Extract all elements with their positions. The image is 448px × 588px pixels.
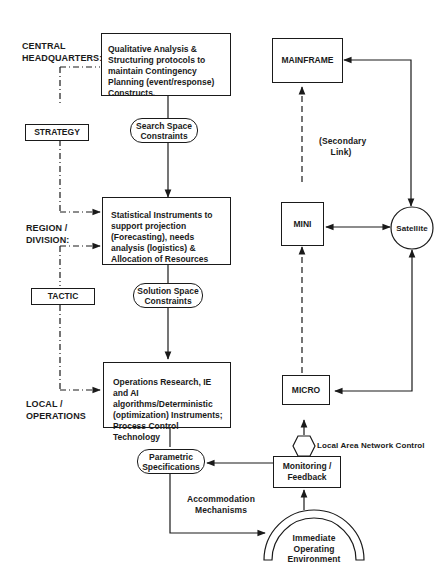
- environment-line: Operating: [280, 544, 348, 555]
- secondary-link-line: Link): [319, 147, 363, 158]
- micro-box: MICRO: [282, 375, 330, 405]
- accommodation-line: Mechanisms: [185, 505, 257, 516]
- monitoring-line: Monitoring /: [283, 461, 332, 472]
- level-label-line: CENTRAL: [22, 40, 102, 52]
- immediate-operating-environment: Immediate Operating Environment: [280, 533, 348, 565]
- level-label-line: OPERATIONS: [26, 410, 86, 422]
- mainframe-label: MAINFRAME: [282, 55, 334, 66]
- level-central-headquarters: CENTRAL HEADQUARTERS:: [22, 40, 102, 64]
- mainframe-box: MAINFRAME: [272, 38, 343, 83]
- solution-space-line: Solution Space: [137, 286, 198, 296]
- mini-label: MINI: [294, 219, 312, 230]
- search-space-constraints: Search Space Constraints: [130, 118, 198, 143]
- micro-label: MICRO: [292, 385, 320, 396]
- qualitative-analysis-text: Qualitative Analysis & Structuring proto…: [108, 44, 214, 98]
- tactic-box: TACTIC: [31, 288, 95, 305]
- accommodation-line: Accommodation: [185, 494, 257, 505]
- lan-hexagon: [293, 436, 315, 456]
- parametric-specifications: Parametric Specifications: [137, 449, 205, 474]
- secondary-link-line: (Secondary: [319, 136, 363, 147]
- satellite-label: Satellite: [396, 223, 428, 234]
- statistical-instruments-text: Statistical Instruments to support proje…: [111, 210, 213, 264]
- solution-space-line: Constraints: [137, 296, 198, 306]
- level-region-division: REGION / DIVISION:: [26, 222, 69, 246]
- monitoring-feedback-box: Monitoring / Feedback: [273, 456, 341, 488]
- lan-control-label: Local Area Network Control: [317, 440, 425, 451]
- environment-line: Immediate: [280, 533, 348, 544]
- search-space-line: Constraints: [136, 131, 192, 141]
- mini-box: MINI: [281, 202, 324, 246]
- qualitative-analysis-box: Qualitative Analysis & Structuring proto…: [101, 33, 231, 96]
- level-label-line: LOCAL /: [26, 398, 86, 410]
- strategy-box: STRATEGY: [25, 124, 89, 141]
- level-local-operations: LOCAL / OPERATIONS: [26, 398, 86, 422]
- parametric-line: Specifications: [142, 462, 200, 472]
- satellite-node: Satellite: [391, 217, 433, 239]
- statistical-instruments-box: Statistical Instruments to support proje…: [102, 197, 231, 265]
- operations-research-box: Operations Research, IE and AI algorithm…: [103, 362, 231, 428]
- environment-line: Environment: [280, 554, 348, 565]
- monitoring-line: Feedback: [283, 472, 332, 483]
- level-label-line: DIVISION:: [26, 234, 69, 246]
- search-space-line: Search Space: [136, 121, 192, 131]
- solution-space-constraints: Solution Space Constraints: [133, 283, 203, 308]
- level-label-line: HEADQUARTERS:: [22, 52, 102, 64]
- tactic-label: TACTIC: [48, 291, 79, 302]
- parametric-line: Parametric: [142, 452, 200, 462]
- strategy-label: STRATEGY: [34, 127, 80, 138]
- level-label-line: REGION /: [26, 222, 69, 234]
- accommodation-mechanisms-label: Accommodation Mechanisms: [185, 494, 257, 516]
- lan-control-text: Local Area Network Control: [317, 441, 425, 450]
- secondary-link-label: (Secondary Link): [319, 136, 363, 158]
